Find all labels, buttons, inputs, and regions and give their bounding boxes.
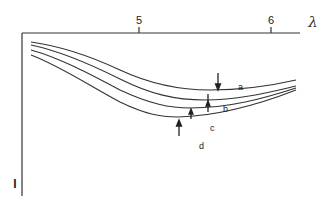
arrow-min-a xyxy=(216,73,221,90)
x-axis-label: λ xyxy=(307,13,318,31)
chart: 5 6 λ I a b c d xyxy=(0,0,327,204)
curve-label-c: c xyxy=(210,123,215,133)
arrow-min-c xyxy=(189,109,193,119)
arrow-min-d xyxy=(177,120,182,136)
arrow-min-b xyxy=(206,94,210,112)
y-axis-label: I xyxy=(13,177,16,191)
x-tick-label-5: 5 xyxy=(136,14,142,26)
curve-c xyxy=(31,50,296,108)
x-tick-label-6: 6 xyxy=(268,14,274,26)
curve-label-a: a xyxy=(238,82,243,92)
curve-label-d: d xyxy=(199,141,204,151)
curve-b xyxy=(31,45,296,100)
curve-d xyxy=(31,55,296,117)
curve-a xyxy=(31,42,296,90)
curve-label-b: b xyxy=(223,104,228,114)
